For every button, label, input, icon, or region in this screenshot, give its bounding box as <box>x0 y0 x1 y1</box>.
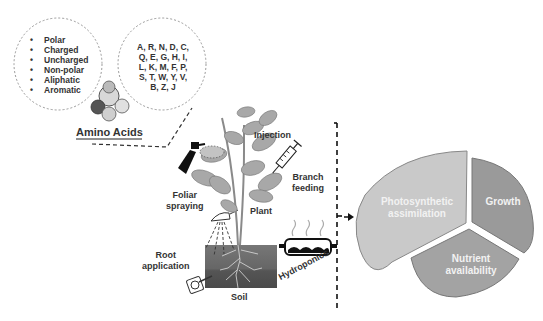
methods-bracket <box>334 123 342 309</box>
pie-label-growth: Growth <box>478 196 528 208</box>
label-root-application: Root application <box>142 250 190 272</box>
codes-line: L, K, M, F, P, <box>124 62 202 72</box>
label-injection: Injection <box>254 130 291 141</box>
label-branch-feeding: Branch feeding <box>292 172 324 194</box>
codes-line: S, T, W, Y, V, <box>124 72 202 82</box>
label-line: Branch <box>292 172 324 183</box>
pie-label-line: availability <box>438 265 504 277</box>
pie-label-line: Nutrient <box>438 253 504 265</box>
plant-leaves <box>189 106 284 215</box>
hydroponics-tank-icon <box>279 220 337 255</box>
label-soil: Soil <box>231 292 248 303</box>
property-item: Aromatic <box>30 85 88 95</box>
property-item: Uncharged <box>30 55 88 65</box>
label-line: Root <box>142 250 190 261</box>
pie-label-line: assimilation <box>374 208 460 220</box>
arrow-to-outcomes <box>344 213 354 221</box>
label-foliar-spraying: Foliar spraying <box>166 190 204 212</box>
property-item: Non-polar <box>30 65 88 75</box>
label-plant: Plant <box>250 206 272 217</box>
codes-line: Q, E, G, H, I, <box>124 52 202 62</box>
codes-line: B, Z, J <box>124 82 202 92</box>
label-line: application <box>142 261 190 272</box>
amino-acids-title: Amino Acids <box>76 126 143 138</box>
codes-line: A, R, N, D, C, <box>124 42 202 52</box>
amino-acid-properties-list: Polar Charged Uncharged Non-polar Alipha… <box>30 35 88 95</box>
label-line: Foliar <box>166 190 204 201</box>
sprayed-leaf <box>200 146 224 158</box>
pie-label-line: Growth <box>478 196 528 208</box>
property-item: Aliphatic <box>30 75 88 85</box>
label-line: feeding <box>292 183 324 194</box>
pie-label-nutrient: Nutrient availability <box>438 253 504 277</box>
property-item: Polar <box>30 35 88 45</box>
amino-acid-codes: A, R, N, D, C, Q, E, G, H, I, L, K, M, F… <box>124 42 202 92</box>
syringe-icon <box>269 140 302 176</box>
spray-bottle-icon <box>178 142 205 174</box>
property-item: Charged <box>30 45 88 55</box>
soil-block <box>205 245 277 288</box>
label-line: spraying <box>166 201 204 212</box>
pie-label-photosynthetic: Photosynthetic assimilation <box>374 196 460 220</box>
pie-label-line: Photosynthetic <box>374 196 460 208</box>
